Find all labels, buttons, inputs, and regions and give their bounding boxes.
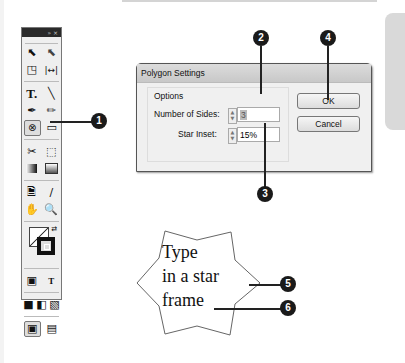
side-tab-panel <box>385 13 405 130</box>
eyedropper-icon[interactable]: ∕ <box>44 186 59 200</box>
separator <box>24 221 59 222</box>
polygon-frame-tool-icon[interactable]: ⊗ <box>24 120 41 136</box>
star-inset-field[interactable]: 15% <box>237 127 280 142</box>
pencil-tool-icon[interactable]: ✏ <box>44 104 59 118</box>
callout-4-leader <box>327 46 329 100</box>
sides-spinner[interactable]: ▲▼ <box>228 108 237 124</box>
hand-tool-icon[interactable]: ✋ <box>24 203 39 217</box>
scissors-icon[interactable]: ✂ <box>24 145 39 159</box>
callout-6: 6 <box>280 300 296 316</box>
line-tool-icon[interactable]: ╲ <box>44 87 59 101</box>
separator <box>24 292 59 293</box>
separator <box>24 180 59 181</box>
callout-5-leader <box>249 284 281 286</box>
star-text-line-2: in a star <box>162 264 219 288</box>
callout-2-leader <box>260 46 262 94</box>
formatting-container-icon[interactable]: ▣ <box>24 274 39 288</box>
free-transform-icon[interactable]: ⬚ <box>44 145 59 159</box>
callout-2: 2 <box>253 30 269 46</box>
gradient-feather-icon[interactable] <box>44 162 59 176</box>
panel-grip[interactable] <box>25 37 58 44</box>
normal-view-icon[interactable]: ▣ <box>24 321 41 337</box>
gap-tool-icon[interactable]: |↔| <box>44 63 59 77</box>
callout-1: 1 <box>91 113 107 129</box>
separator <box>24 139 59 140</box>
callout-1-leader <box>50 121 92 123</box>
separator <box>24 316 59 317</box>
apply-none-icon[interactable]: ▧ <box>48 298 61 312</box>
polygon-settings-dialog: Polygon Settings Options Number of Sides… <box>136 63 372 172</box>
separator <box>24 268 59 269</box>
callout-6-leader <box>214 308 281 310</box>
fill-stroke-swatches[interactable]: ⇄ <box>26 225 57 265</box>
apply-color-icon[interactable]: ■ <box>22 298 35 312</box>
star-text-line-1: Type <box>162 240 219 264</box>
options-label: Options <box>154 91 183 101</box>
callout-5: 5 <box>280 276 296 292</box>
left-margin-strip <box>0 0 4 363</box>
inset-spinner[interactable]: ▲▼ <box>228 128 237 144</box>
tools-panel-header[interactable]: » × <box>22 28 61 37</box>
top-divider <box>122 0 377 2</box>
zoom-tool-icon[interactable]: 🔍 <box>44 203 59 217</box>
preview-mode-icon[interactable]: ▤ <box>44 322 59 336</box>
gradient-swatch-icon[interactable] <box>24 162 39 176</box>
cancel-button[interactable]: Cancel <box>297 116 360 132</box>
separator <box>24 81 59 82</box>
number-of-sides-field[interactable]: 3 <box>237 107 280 122</box>
dialog-title: Polygon Settings <box>137 64 371 83</box>
type-tool-icon[interactable]: T. <box>24 87 39 101</box>
tools-panel: » × ⬉ ⬉ ◳ |↔| T. ╲ ✒ ✏ ⊗ ▭ ✂ ⬚ 🗎 ∕ ✋ 🔍 <box>21 27 62 300</box>
swap-icon[interactable]: ⇄ <box>51 225 57 233</box>
callout-4: 4 <box>320 30 336 46</box>
star-inset-label: Star Inset: <box>178 129 217 139</box>
direct-selection-tool-icon[interactable]: ⬉ <box>44 46 59 60</box>
star-frame-text[interactable]: Type in a star frame <box>162 240 219 312</box>
apply-gradient-icon[interactable]: ◧ <box>35 298 48 312</box>
note-tool-icon[interactable]: 🗎 <box>24 186 39 200</box>
callout-3-leader <box>264 123 266 188</box>
stroke-swatch[interactable] <box>37 237 55 255</box>
options-group: Options Number of Sides: ▲▼ 3 Star Inset… <box>147 87 289 162</box>
star-text-line-3: frame <box>162 288 219 312</box>
callout-3: 3 <box>257 186 273 202</box>
formatting-text-icon[interactable]: T <box>44 274 59 288</box>
selection-tool-icon[interactable]: ⬉ <box>24 46 39 60</box>
number-of-sides-label: Number of Sides: <box>154 109 220 119</box>
page-tool-icon[interactable]: ◳ <box>24 63 39 77</box>
pen-tool-icon[interactable]: ✒ <box>24 104 39 118</box>
